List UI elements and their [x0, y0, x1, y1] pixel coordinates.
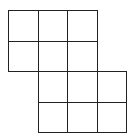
- grid-cell: [38, 102, 68, 133]
- grid-cell: [97, 102, 127, 133]
- grid-cell: [38, 41, 68, 72]
- grid-shape-diagram: [0, 0, 131, 136]
- grid-cell: [38, 10, 68, 42]
- grid-cell: [97, 71, 127, 103]
- grid-cell: [8, 41, 39, 72]
- grid-cell: [38, 71, 68, 103]
- grid-cell: [67, 102, 98, 133]
- grid-cell: [67, 41, 98, 72]
- grid-cell: [8, 10, 39, 42]
- grid-cell: [67, 71, 98, 103]
- grid-cell: [67, 10, 98, 42]
